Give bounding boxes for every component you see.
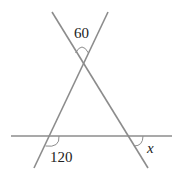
bottom-left-angle-label: 120 <box>50 149 73 165</box>
unknown-angle-label: x <box>146 140 154 156</box>
angle-diagram: 60 120 x <box>0 0 181 177</box>
ascending-line <box>34 12 108 168</box>
x-angle-arc <box>134 136 143 146</box>
top-angle-label: 60 <box>74 25 89 41</box>
diagram-svg: 60 120 x <box>0 0 181 177</box>
descending-line <box>52 12 148 168</box>
